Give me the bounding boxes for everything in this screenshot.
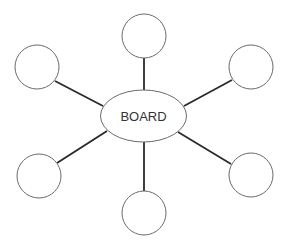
node-bottom — [122, 191, 166, 235]
hub-label: BOARD — [120, 109, 166, 124]
node-lower-right — [229, 153, 273, 197]
spoke-upper-right — [184, 80, 232, 106]
hub: BOARD — [101, 90, 187, 142]
board-diagram: BOARD — [0, 0, 286, 249]
node-upper-right — [229, 45, 273, 89]
spoke-upper-left — [55, 81, 103, 106]
node-lower-left — [17, 154, 61, 198]
node-top — [122, 14, 166, 58]
node-upper-left — [15, 45, 59, 89]
spoke-lower-left — [57, 131, 107, 163]
spoke-lower-right — [178, 132, 231, 164]
